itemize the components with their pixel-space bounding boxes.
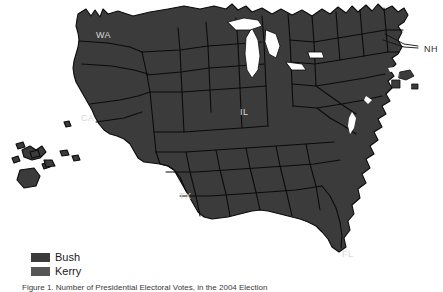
legend-item-kerry: Kerry	[31, 265, 121, 277]
map-legend: Bush Kerry	[31, 251, 121, 279]
figure-page: WA CA IL TX FL NH Bush Kerry Figure 1. N…	[0, 0, 443, 292]
cape-cod	[399, 70, 414, 80]
legend-label-bush: Bush	[55, 252, 80, 263]
legend-label-kerry: Kerry	[55, 266, 81, 277]
map-landmass-group	[12, 4, 418, 252]
legend-swatch-kerry	[31, 267, 50, 276]
lake-ontario	[308, 52, 324, 58]
map-svg	[0, 0, 443, 260]
legend-item-bush: Bush	[31, 251, 121, 263]
nantucket	[412, 84, 418, 89]
legend-swatch-bush	[31, 253, 50, 262]
electoral-cartogram-map: WA CA IL TX FL NH	[0, 0, 443, 260]
rhode-island-tab	[392, 80, 400, 88]
offshore-islets-group	[60, 121, 80, 161]
figure-caption: Figure 1. Number of Presidential Elector…	[22, 283, 267, 292]
new-england-fringe-group	[392, 70, 418, 89]
hawaii-inset	[16, 142, 55, 188]
